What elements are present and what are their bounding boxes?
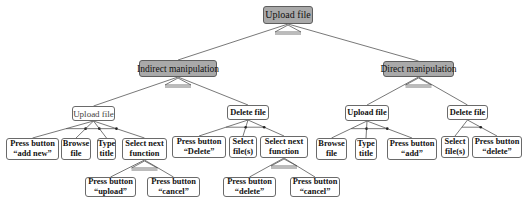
sequence-arrowhead-icon [479,126,482,129]
sequence-arrowhead-icon [263,126,266,129]
edge-selnext1-press_cancel1 [145,160,174,177]
edge-root-direct [288,24,419,61]
edge-dir_upload-browse2 [332,121,368,138]
sequence-arrowhead-icon [386,127,389,130]
edge-indirect-ind_upload [94,77,179,106]
node-select-files1: Select file(s) [229,136,257,158]
node-press-delete: Press button “delete” [223,177,276,197]
node-select-files2: Select file(s) [441,136,469,158]
edge-direct-dir_upload [367,77,419,105]
edge-ind_delete-press_delete_cap [199,120,248,136]
node-root: Upload file [263,6,313,24]
node-press-upload: Press button “upload” [85,177,136,197]
node-press-cancel2: Press button “cancel” [290,177,340,197]
edge-selnext1-press_upload [111,160,145,177]
or-decomposition-marker [275,25,301,32]
edge-selnext2-press_delete [250,158,285,177]
task-tree-connectors [0,0,530,202]
sequence-arrowhead-icon [115,127,118,130]
node-add-new: Press button “add new” [6,138,59,160]
node-type1: Type title [97,138,116,160]
node-browse2: Browse file [316,138,347,160]
node-selnext1: Select next function [122,138,167,160]
edge-ind_upload-selnext1 [94,121,145,138]
node-type2: Type title [355,138,377,160]
edge-dir_delete-select_files2 [455,120,468,136]
node-indirect: Indirect manipulation [139,60,217,77]
node-selnext2: Select next function [260,136,308,158]
node-direct: Direct manipulation [383,61,454,77]
edge-direct-dir_delete [419,77,468,105]
node-press-delete-cap: Press button “Delete” [172,136,226,158]
edge-indirect-ind_delete [178,77,248,105]
edge-ind_delete-selnext2 [248,120,284,136]
node-press-add: Press button “add” [387,138,437,160]
or-decomposition-marker [271,159,297,166]
or-decomposition-marker [165,78,191,85]
node-dir-upload: Upload file [345,105,389,121]
node-ind-upload: Upload file [72,106,115,121]
node-dir-delete: Delete file [447,105,488,120]
node-ind-delete: Delete file [227,105,269,120]
node-browse1: Browse file [61,138,91,160]
edge-dir_delete-press_delete_lc [468,120,498,136]
edge-dir_upload-press_add [367,121,412,138]
edge-selnext2-press_cancel2 [284,158,315,177]
edge-root-indirect [178,24,288,60]
node-press-delete-lc: Press button “delete” [472,136,522,158]
node-press-cancel1: Press button “cancel” [147,177,200,197]
